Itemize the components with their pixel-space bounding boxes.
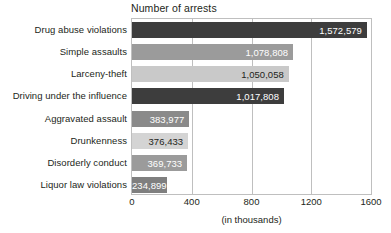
bar-value-label: 1,572,579: [132, 25, 362, 36]
bar-value-label: 1,078,808: [132, 47, 288, 58]
bar-value-label: 369,733: [132, 158, 182, 169]
bar-row[interactable]: 369,733: [132, 155, 371, 171]
category-axis: Drug abuse violationsSimple assaultsLarc…: [0, 18, 127, 195]
category-label: Driving under the influence: [0, 90, 127, 101]
bar-value-label: 376,433: [132, 136, 183, 147]
bar-value-label: 383,977: [132, 114, 184, 125]
x-axis: 040080012001600: [0, 196, 391, 212]
category-label: Larceny-theft: [0, 68, 127, 79]
chart-title: Number of arrests: [131, 1, 217, 15]
plot-area: 1,572,5791,078,8081,050,0581,017,808383,…: [131, 18, 372, 195]
bar-row[interactable]: 1,572,579: [132, 22, 371, 38]
bar-row[interactable]: 1,050,058: [132, 66, 371, 82]
x-tick-label: 800: [244, 196, 260, 208]
bar-value-label: 234,899: [132, 180, 162, 191]
x-tick-label: 1200: [301, 196, 322, 208]
x-tick-label: 0: [129, 196, 134, 208]
bar-row[interactable]: 376,433: [132, 133, 371, 149]
bar-chart: Number of arrests Drug abuse violationsS…: [0, 0, 391, 233]
category-label: Drunkenness: [0, 135, 127, 146]
bar-row[interactable]: 234,899: [132, 177, 371, 193]
bar-value-label: 1,017,808: [132, 91, 279, 102]
category-label: Simple assaults: [0, 46, 127, 57]
category-label: Disorderly conduct: [0, 157, 127, 168]
bar-value-label: 1,050,058: [132, 69, 284, 80]
bar-row[interactable]: 1,078,808: [132, 44, 371, 60]
category-label: Aggravated assault: [0, 113, 127, 124]
x-tick-label: 1600: [360, 196, 381, 208]
category-label: Liquor law violations: [0, 179, 127, 190]
x-tick-label: 400: [184, 196, 200, 208]
category-label: Drug abuse violations: [0, 24, 127, 35]
bar-row[interactable]: 383,977: [132, 111, 371, 127]
x-axis-title: (in thousands): [131, 214, 372, 226]
bar-row[interactable]: 1,017,808: [132, 88, 371, 104]
